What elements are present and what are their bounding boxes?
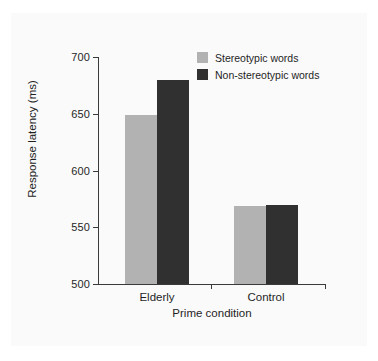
x-tick-between-groups (211, 284, 212, 289)
bar-chart-plot: 700 650 600 550 500 Elderly Control Prim (0, 0, 378, 361)
x-axis-title: Prime condition (98, 307, 326, 319)
legend-swatch-non-stereotypic-icon (197, 69, 208, 80)
y-tick-550 (93, 227, 98, 228)
y-tick-label-500: 500 (50, 278, 90, 290)
legend-label-stereotypic: Stereotypic words (215, 52, 298, 64)
bar-control-stereotypic (234, 206, 266, 284)
y-tick-label-600: 600 (50, 165, 90, 177)
y-tick-label-650: 650 (50, 108, 90, 120)
x-tick-right-end (325, 284, 326, 289)
y-tick-500 (93, 284, 98, 285)
bar-elderly-non-stereotypic (157, 80, 189, 284)
y-tick-label-700-wrap: 700 (48, 51, 90, 63)
y-tick-label-550-wrap: 550 (48, 221, 90, 233)
chart-legend: Stereotypic words Non-stereotypic words (197, 50, 319, 84)
legend-label-non-stereotypic: Non-stereotypic words (215, 69, 319, 81)
y-axis-title: Response latency (ms) (26, 59, 38, 219)
y-tick-label-500-wrap: 500 (48, 278, 90, 290)
y-tick-700 (93, 57, 98, 58)
y-tick-label-600-wrap: 600 (48, 165, 90, 177)
legend-swatch-stereotypic-icon (197, 52, 208, 63)
bar-elderly-stereotypic (125, 115, 157, 284)
y-tick-650 (93, 114, 98, 115)
bar-control-non-stereotypic (266, 205, 298, 284)
figure-container: 700 650 600 550 500 Elderly Control Prim (0, 0, 378, 361)
x-category-label-control: Control (226, 291, 306, 303)
legend-item-non-stereotypic: Non-stereotypic words (197, 67, 319, 82)
y-axis-line (98, 57, 99, 285)
x-category-label-elderly: Elderly (117, 291, 197, 303)
y-tick-label-550: 550 (50, 221, 90, 233)
y-tick-label-650-wrap: 650 (48, 108, 90, 120)
y-tick-label-700: 700 (50, 51, 90, 63)
y-tick-600 (93, 171, 98, 172)
legend-item-stereotypic: Stereotypic words (197, 50, 319, 65)
